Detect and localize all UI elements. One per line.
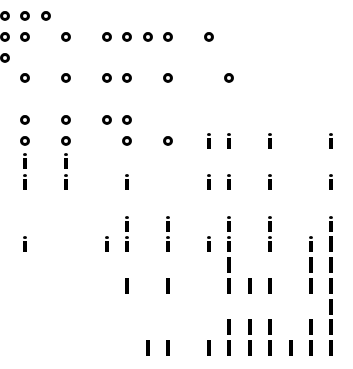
bar-glyph	[227, 257, 231, 273]
ring-glyph	[122, 73, 132, 83]
i-glyph	[227, 216, 231, 232]
i-glyph	[268, 133, 272, 149]
ring-glyph	[20, 115, 30, 125]
ring-glyph	[61, 32, 71, 42]
bar-glyph	[289, 340, 293, 356]
bar-glyph	[268, 319, 272, 335]
ring-glyph	[20, 32, 30, 42]
i-glyph	[207, 174, 211, 190]
bar-glyph	[227, 319, 231, 335]
ring-glyph	[122, 115, 132, 125]
bar-glyph	[329, 340, 333, 356]
bar-glyph	[166, 278, 170, 294]
bar-glyph	[309, 278, 313, 294]
bar-glyph	[329, 257, 333, 273]
i-glyph	[207, 236, 211, 252]
bar-glyph	[329, 319, 333, 335]
i-glyph	[329, 133, 333, 149]
bar-glyph	[268, 278, 272, 294]
i-glyph	[64, 174, 68, 190]
bar-glyph	[227, 278, 231, 294]
i-glyph	[105, 236, 109, 252]
bar-glyph	[227, 340, 231, 356]
bar-glyph	[329, 278, 333, 294]
ring-glyph	[41, 11, 51, 21]
ring-glyph	[102, 73, 112, 83]
ring-glyph	[61, 73, 71, 83]
i-glyph	[125, 216, 129, 232]
bar-glyph	[248, 340, 252, 356]
ring-glyph	[122, 136, 132, 146]
bar-glyph	[309, 319, 313, 335]
ring-glyph	[0, 32, 10, 42]
i-glyph	[207, 133, 211, 149]
bar-glyph	[329, 236, 333, 252]
ring-glyph	[143, 32, 153, 42]
bar-glyph	[309, 257, 313, 273]
i-glyph	[268, 236, 272, 252]
bar-glyph	[268, 340, 272, 356]
i-glyph	[166, 236, 170, 252]
bar-glyph	[248, 278, 252, 294]
bar-glyph	[329, 299, 333, 315]
i-glyph	[227, 174, 231, 190]
ring-glyph	[102, 32, 112, 42]
i-glyph	[125, 236, 129, 252]
bar-glyph	[166, 340, 170, 356]
ring-glyph	[163, 73, 173, 83]
ring-glyph	[20, 11, 30, 21]
ring-glyph	[0, 11, 10, 21]
i-glyph	[227, 236, 231, 252]
glyph-matrix-canvas	[0, 0, 353, 369]
ring-glyph	[61, 136, 71, 146]
ring-glyph	[61, 115, 71, 125]
i-glyph	[268, 174, 272, 190]
i-glyph	[166, 216, 170, 232]
ring-glyph	[163, 136, 173, 146]
ring-glyph	[102, 115, 112, 125]
ring-glyph	[0, 53, 10, 63]
i-glyph	[268, 216, 272, 232]
i-glyph	[227, 133, 231, 149]
bar-glyph	[207, 340, 211, 356]
i-glyph	[23, 174, 27, 190]
ring-glyph	[122, 32, 132, 42]
i-glyph	[309, 236, 313, 252]
ring-glyph	[20, 73, 30, 83]
bar-glyph	[146, 340, 150, 356]
ring-glyph	[163, 32, 173, 42]
i-glyph	[23, 153, 27, 169]
bar-glyph	[309, 340, 313, 356]
i-glyph	[23, 236, 27, 252]
i-glyph	[125, 174, 129, 190]
bar-glyph	[125, 278, 129, 294]
i-glyph	[329, 174, 333, 190]
ring-glyph	[20, 136, 30, 146]
i-glyph	[329, 216, 333, 232]
ring-glyph	[224, 73, 234, 83]
bar-glyph	[248, 319, 252, 335]
ring-glyph	[204, 32, 214, 42]
i-glyph	[64, 153, 68, 169]
